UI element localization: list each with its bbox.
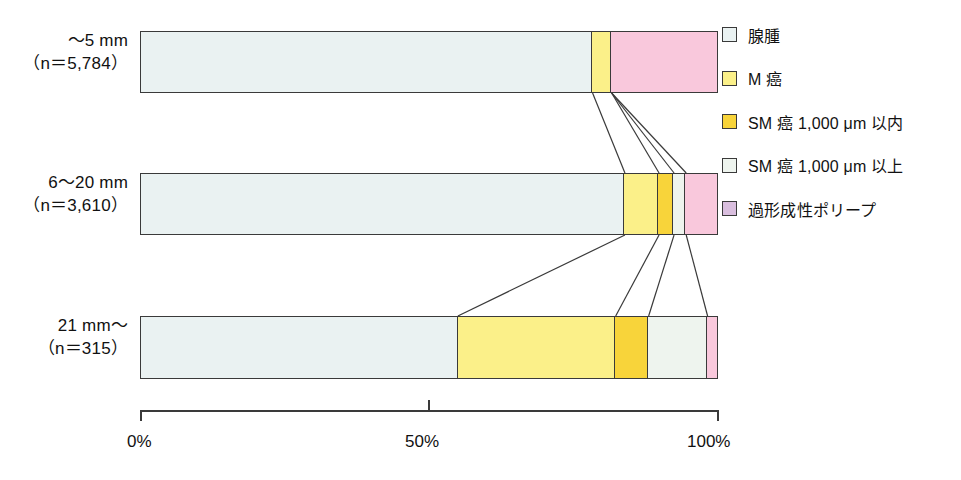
bar-segment-1-4 (685, 174, 717, 234)
legend-label-2: SM 癌 1,000 μm 以内 (748, 110, 904, 134)
bar-segment-0-4 (611, 32, 717, 92)
bar-segment-1-1 (624, 174, 658, 234)
x-axis-tick-100 (717, 410, 719, 421)
connector-line-1-0 (458, 235, 625, 316)
category-label-0-line1: 〜5 mm (0, 30, 128, 53)
category-label-2-line1: 21 mm〜 (0, 315, 128, 338)
legend-swatch-icon-3 (722, 158, 737, 173)
chart-legend: 腺腫 M 癌 SM 癌 1,000 μm 以内 SM 癌 1,000 μm 以上… (722, 22, 904, 240)
legend-label-0: 腺腫 (748, 23, 780, 47)
connector-line-1-3 (686, 235, 707, 316)
legend-swatch-icon-1 (722, 71, 737, 86)
bar-segment-0-1 (592, 32, 611, 92)
legend-item-2[interactable]: SM 癌 1,000 μm 以内 (722, 109, 904, 134)
connector-line-1-2 (649, 235, 674, 316)
x-axis-tick-50 (428, 400, 430, 411)
category-label-0: 〜5 mm （n＝5,784） (0, 30, 128, 76)
category-label-1-line1: 6〜20 mm (0, 172, 128, 195)
x-axis-tick-label-0: 0% (127, 432, 152, 452)
x-axis-tick-label-50: 50% (405, 432, 439, 452)
connector-line-0-3 (612, 93, 687, 173)
legend-item-1[interactable]: M 癌 (722, 66, 904, 91)
stacked-bar-row-0 (140, 31, 718, 93)
x-axis-tick-label-100: 100% (687, 432, 730, 452)
category-label-2-line2: （n＝315） (0, 338, 128, 361)
connector-line-0-2 (612, 93, 674, 173)
x-axis-tick-0 (140, 410, 142, 421)
bar-segment-1-2 (658, 174, 673, 234)
legend-item-3[interactable]: SM 癌 1,000 μm 以上 (722, 153, 904, 178)
legend-label-4: 過形成性ポリープ (748, 197, 877, 221)
bar-segment-1-3 (673, 174, 685, 234)
stacked-bar-row-1 (140, 173, 718, 235)
legend-swatch-icon-2 (722, 114, 737, 129)
category-label-0-line2: （n＝5,784） (0, 53, 128, 76)
connector-line-0-0 (593, 93, 625, 173)
legend-swatch-icon-0 (722, 27, 737, 42)
category-label-1: 6〜20 mm （n＝3,610） (0, 172, 128, 218)
category-label-1-line2: （n＝3,610） (0, 195, 128, 218)
connector-line-0-1 (612, 93, 659, 173)
legend-item-0[interactable]: 腺腫 (722, 22, 904, 47)
stacked-bar-row-2 (140, 316, 718, 379)
chart-canvas: 〜5 mm （n＝5,784） 6〜20 mm （n＝3,610） 21 mm〜… (0, 0, 961, 480)
legend-swatch-icon-4 (722, 201, 737, 216)
legend-label-1: M 癌 (748, 66, 782, 90)
connector-line-1-1 (616, 235, 659, 316)
bar-segment-2-1 (458, 317, 615, 378)
bar-segment-2-2 (615, 317, 648, 378)
bar-segment-0-0 (141, 32, 592, 92)
bar-segment-1-0 (141, 174, 624, 234)
bar-segment-2-3 (648, 317, 707, 378)
category-label-2: 21 mm〜 （n＝315） (0, 315, 128, 361)
legend-item-4[interactable]: 過形成性ポリープ (722, 196, 904, 221)
bar-segment-2-0 (141, 317, 458, 378)
legend-label-3: SM 癌 1,000 μm 以上 (748, 153, 904, 177)
bar-segment-2-4 (707, 317, 717, 378)
